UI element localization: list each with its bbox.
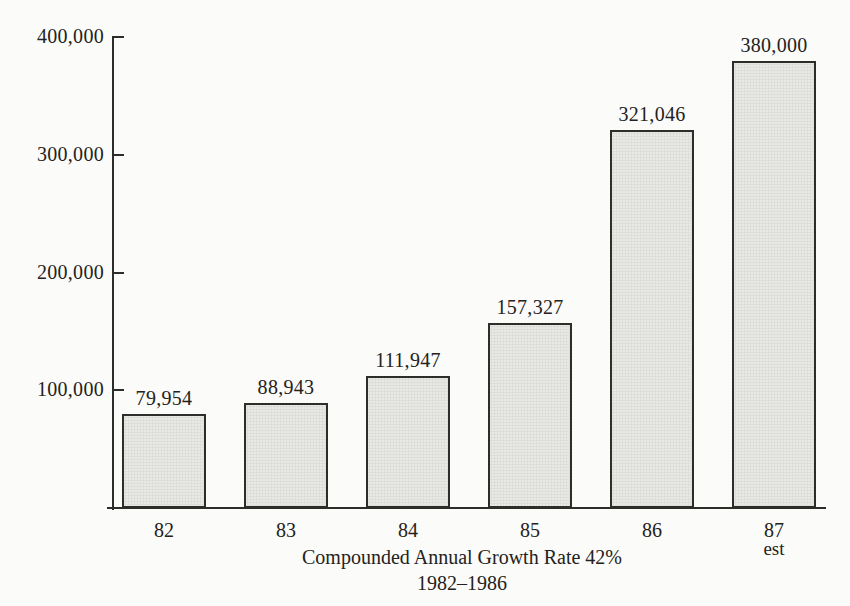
- chart-caption: Compounded Annual Growth Rate 42% 1982–1…: [302, 544, 622, 596]
- bar-87: [732, 61, 816, 508]
- x-axis-category-sublabel: est: [699, 538, 849, 560]
- bar-85: [488, 323, 572, 508]
- bar-84: [366, 376, 450, 508]
- y-axis-tick: [114, 154, 124, 156]
- x-axis-line: [107, 507, 826, 509]
- bar-83: [244, 403, 328, 508]
- bar-86: [610, 130, 694, 508]
- caption-growth-rate: Compounded Annual Growth Rate 42%: [302, 544, 622, 570]
- bar-value-label: 321,046: [577, 103, 727, 126]
- y-axis-tick-label: 200,000: [0, 261, 104, 284]
- bar-value-label: 111,947: [333, 349, 483, 372]
- y-axis-tick-label: 300,000: [0, 143, 104, 166]
- y-axis-tick: [114, 36, 124, 38]
- caption-year-range: 1982–1986: [302, 570, 622, 596]
- bar-value-label: 88,943: [211, 376, 361, 399]
- bar-chart-figure: 100,000200,000300,000400,000 79,9548288,…: [0, 0, 850, 606]
- bar-value-label: 157,327: [455, 296, 605, 319]
- bar-value-label: 380,000: [699, 34, 849, 57]
- bar-82: [122, 414, 206, 508]
- y-axis-tick-label: 400,000: [0, 25, 104, 48]
- y-axis-tick: [114, 272, 124, 274]
